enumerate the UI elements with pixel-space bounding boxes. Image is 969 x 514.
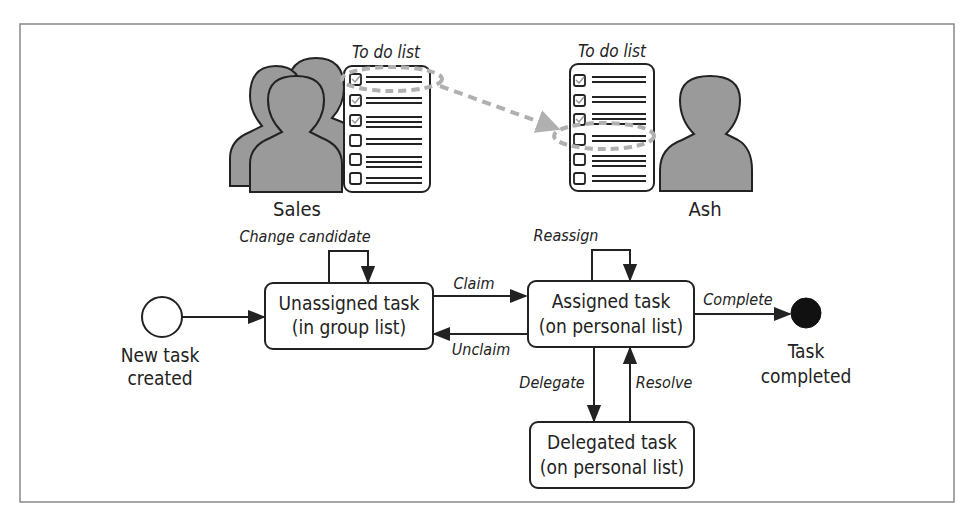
change-candidate-label: Change candidate <box>239 227 370 246</box>
user-owner-label: Ash <box>688 197 721 221</box>
change-candidate-loop-arrow <box>329 251 368 283</box>
group-owner-label: Sales <box>273 197 321 221</box>
unassigned-line2: (in group list) <box>292 316 407 338</box>
delegated-line2: (on personal list) <box>540 456 684 478</box>
reassign-loop-arrow <box>592 250 630 281</box>
workflow-diagram: To do list To do list Sales Ash New task… <box>0 0 969 514</box>
group-list-label: To do list <box>352 42 421 62</box>
end-label-line2: completed <box>761 365 852 387</box>
claim-label: Claim <box>454 274 495 293</box>
end-label-line1: Task <box>787 340 825 362</box>
group-todo-list-icon <box>344 66 430 192</box>
end-state-node <box>791 298 821 328</box>
delegated-line1: Delegated task <box>547 431 677 453</box>
user-list-label: To do list <box>578 41 647 61</box>
unclaim-label: Unclaim <box>452 340 510 359</box>
unassigned-line1: Unassigned task <box>279 292 420 314</box>
start-state-node <box>142 297 182 337</box>
move-task-arrow <box>440 86 556 128</box>
resolve-label: Resolve <box>636 373 693 392</box>
assigned-line1: Assigned task <box>552 290 671 312</box>
reassign-label: Reassign <box>534 226 599 245</box>
user-person-icon <box>660 76 752 191</box>
delegate-label: Delegate <box>519 373 584 392</box>
complete-label: Complete <box>703 290 773 309</box>
assigned-line2: (on personal list) <box>539 315 683 337</box>
start-label-line1: New task <box>121 344 200 366</box>
diagram-frame <box>20 24 954 502</box>
group-people-icon <box>230 58 352 192</box>
start-label-line2: created <box>127 367 192 389</box>
